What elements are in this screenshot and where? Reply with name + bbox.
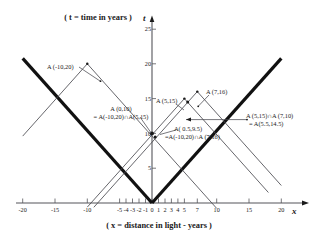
y-tick-label-5: 5 <box>148 164 151 171</box>
annotation-intersection-line2: = A(5.5,14.5) <box>249 120 284 128</box>
x-tick-label--10: -10 <box>83 206 91 213</box>
x-tick-label--20: -20 <box>19 206 27 213</box>
x-axis-caption: ( x = distance in light - years ) <box>106 221 212 230</box>
leader-arrowhead-left-icon <box>186 118 191 122</box>
annotation-a-0-10-line2: = A(-10,20)∩A(5,15) <box>94 113 149 121</box>
minkowski-diagram-figure: 25 20 15 10 5 -20 -15 -10 -5 -4 -3 -2 <box>0 0 321 238</box>
event-point-a-7-16 <box>196 90 198 92</box>
leader-a-minus10-20-endpoint <box>100 80 102 82</box>
x-tick-label--2: -2 <box>136 206 141 213</box>
x-axis-arrow-icon <box>302 201 309 206</box>
annotation-a-minus10-20: A (-10,20) <box>47 63 74 71</box>
y-tick-label-15: 15 <box>145 95 151 102</box>
y-tick-label-10: 10 <box>145 130 151 137</box>
axes-group <box>16 16 309 206</box>
event-point-a-55-145 <box>186 101 189 104</box>
spacetime-diagram-svg: 25 20 15 10 5 -20 -15 -10 -5 -4 -3 -2 <box>0 0 321 238</box>
x-tick-label-7: 7 <box>196 206 199 213</box>
leader-a-7-16-endpoint <box>197 105 199 107</box>
y-tick-label-25: 25 <box>145 25 151 32</box>
x-tick-label--15: -15 <box>51 206 59 213</box>
light-cone-origin-left-ray <box>23 58 152 203</box>
x-tick-label--5: -5 <box>117 206 122 213</box>
x-tick-label-3: 3 <box>170 206 173 213</box>
annotation-a-7-16: A (7,16) <box>206 88 227 96</box>
x-tick-label-5: 5 <box>183 206 186 213</box>
x-tick-label-20: 20 <box>278 206 284 213</box>
t-axis-caption: ( t = time in years ) <box>64 13 132 22</box>
event-point-a-5-15 <box>183 97 185 99</box>
annotation-a-5-15: A (5,15) <box>156 97 177 105</box>
t-axis-arrow-icon <box>150 16 155 23</box>
t-axis-symbol-label: t <box>143 13 146 23</box>
x-axis-symbol-label: x <box>291 206 297 216</box>
annotation-a-05-95-line2: =A(-10,20)∩A (7,16) <box>165 133 220 141</box>
x-tick-label--4: -4 <box>123 206 128 213</box>
cone-a-minus10-20-left-ray <box>23 64 88 136</box>
y-ticks-group: 25 20 15 10 5 <box>145 25 156 171</box>
light-cone-origin-right-ray <box>152 58 281 203</box>
x-tick-label-1: 1 <box>157 206 160 213</box>
x-tick-label--3: -3 <box>130 206 135 213</box>
leader-a-7-16 <box>199 95 210 106</box>
event-point-a-0-10 <box>150 132 154 136</box>
x-tick-label-10: 10 <box>214 206 220 213</box>
x-tick-label-15: 15 <box>246 206 252 213</box>
cone-a-7-16-left-ray <box>94 92 198 208</box>
y-tick-label-20: 20 <box>145 60 151 67</box>
event-point-a-05-95 <box>154 135 157 138</box>
x-tick-label-0: 0 <box>150 206 153 213</box>
x-tick-label-2: 2 <box>163 206 166 213</box>
event-point-a-minus10-20 <box>86 63 88 65</box>
x-tick-label--1: -1 <box>143 206 148 213</box>
x-tick-label-4: 4 <box>176 206 179 213</box>
